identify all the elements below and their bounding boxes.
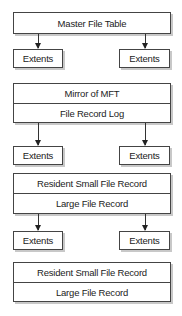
extents-box-left: Extents: [13, 49, 63, 68]
extents-box-left: Extents: [13, 146, 63, 165]
extents-label: Extents: [14, 50, 62, 67]
file-record-block: Resident Small File Record Large File Re…: [13, 262, 171, 302]
extents-label: Extents: [120, 50, 169, 67]
arrow-down-icon: [145, 123, 146, 145]
resident-small-file-record-label: Resident Small File Record: [14, 174, 170, 193]
arrow-down-icon: [145, 214, 146, 230]
resident-small-file-record-label: Resident Small File Record: [14, 263, 170, 282]
large-file-record-label: Large File Record: [14, 282, 170, 301]
mirror-of-mft-label: Mirror of MFT: [14, 84, 170, 103]
file-record-block: Resident Small File Record Large File Re…: [13, 173, 171, 214]
extents-label: Extents: [120, 147, 169, 164]
extents-label: Extents: [120, 232, 169, 249]
extents-box-right: Extents: [119, 146, 170, 165]
extents-box-left: Extents: [13, 231, 63, 250]
mirror-mft-block: Mirror of MFT File Record Log: [13, 83, 171, 123]
arrow-down-icon: [38, 214, 39, 230]
extents-box-right: Extents: [119, 49, 170, 68]
file-record-log-label: File Record Log: [14, 103, 170, 122]
extents-box-right: Extents: [119, 231, 170, 250]
arrow-down-icon: [38, 34, 39, 48]
master-file-table-block: Master File Table: [13, 12, 171, 34]
extents-label: Extents: [14, 232, 62, 249]
extents-label: Extents: [14, 147, 62, 164]
large-file-record-label: Large File Record: [14, 193, 170, 213]
master-file-table-label: Master File Table: [14, 13, 170, 33]
arrow-down-icon: [145, 34, 146, 48]
arrow-down-icon: [38, 123, 39, 145]
